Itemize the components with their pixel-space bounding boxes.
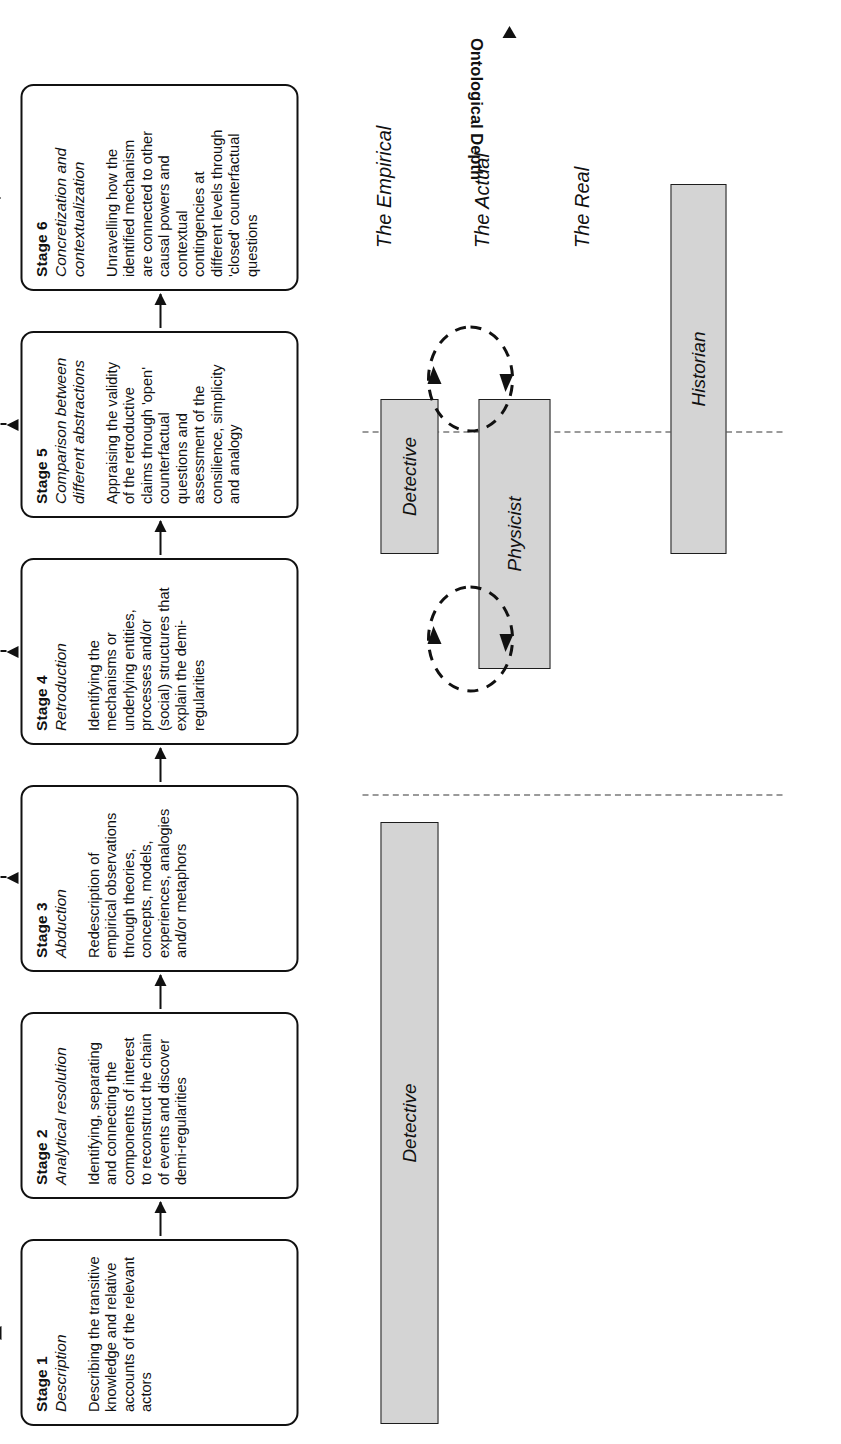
methodology-diagram: Stage 1 Description Describing the trans… xyxy=(0,0,841,1444)
role-label: Detective xyxy=(398,437,420,516)
stage-description: Identifying, separating and connecting t… xyxy=(85,1027,190,1185)
iteration-arrowhead-stage3 xyxy=(6,872,18,884)
stage-subtitle: Description xyxy=(51,1252,69,1412)
strata-divider-empirical-actual xyxy=(362,794,782,796)
role-label: Historian xyxy=(687,332,709,407)
iteration-branch-stage4 xyxy=(0,650,6,652)
retroduction-comparison-cycle-icon xyxy=(405,314,535,444)
stage-description: Redescription of empirical observations … xyxy=(85,800,190,958)
stage-title: Stage 3 xyxy=(32,795,50,958)
role-bar-detective-long: Detective xyxy=(380,822,438,1424)
stage-title: Stage 2 xyxy=(32,1022,50,1185)
recommencement-arrowhead xyxy=(0,1326,1,1340)
flow-arrow-3-to-4 xyxy=(159,748,161,782)
ontological-depth-arrow-icon xyxy=(502,26,516,38)
stage-description: Unravelling how the identified mechanism… xyxy=(103,119,261,277)
role-label: Physicist xyxy=(503,497,525,572)
stage-box-5: Stage 5 Comparison between different abs… xyxy=(20,331,298,518)
stage-box-6: Stage 6 Concretization and contextualiza… xyxy=(20,84,298,291)
stage-description: Identifying the mechanisms or underlying… xyxy=(85,573,208,731)
stage-title: Stage 1 xyxy=(32,1249,50,1412)
stage-description: Appraising the validity of the retroduct… xyxy=(103,346,243,504)
flow-arrow-1-to-2 xyxy=(159,1202,161,1236)
strata-label-empirical: The Empirical xyxy=(372,126,395,248)
stage-title: Stage 5 xyxy=(32,341,50,504)
stage-box-4: Stage 4 Retroduction Identifying the mec… xyxy=(20,558,298,745)
flow-arrow-5-to-6 xyxy=(159,294,161,328)
stage-subtitle: Abduction xyxy=(51,798,69,958)
stage-subtitle: Retroduction xyxy=(51,571,69,731)
strata-label-real: The Real xyxy=(570,167,593,248)
flow-arrow-4-to-5 xyxy=(159,521,161,555)
stage-box-3: Stage 3 Abduction Redescription of empir… xyxy=(20,785,298,972)
stage-title: Stage 4 xyxy=(32,568,50,731)
flow-arrow-2-to-3 xyxy=(159,975,161,1009)
stage-box-2: Stage 2 Analytical resolution Identifyin… xyxy=(20,1012,298,1199)
abduction-retroduction-cycle-icon xyxy=(405,574,535,704)
stage-subtitle: Comparison between different abstraction… xyxy=(51,344,87,504)
stage-box-1: Stage 1 Description Describing the trans… xyxy=(20,1239,298,1426)
iteration-arrowhead-stage5 xyxy=(6,419,18,431)
role-bar-historian: Historian xyxy=(670,184,726,554)
stage-subtitle: Analytical resolution xyxy=(51,1025,69,1185)
iteration-branch-stage3 xyxy=(0,876,6,878)
ontological-depth-label: Ontological Depth xyxy=(466,38,485,180)
iteration-arrowhead-stage4 xyxy=(6,646,18,658)
stage-description: Describing the transitive knowledge and … xyxy=(85,1254,155,1412)
stage-title: Stage 6 xyxy=(32,94,50,277)
stage-subtitle: Concretization and contextualization xyxy=(51,117,87,277)
iteration-branch-stage5 xyxy=(0,423,6,425)
role-label: Detective xyxy=(398,1083,420,1162)
